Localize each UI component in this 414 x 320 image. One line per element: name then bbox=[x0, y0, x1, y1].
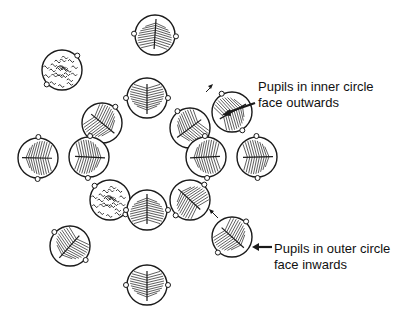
pupil-head bbox=[124, 190, 171, 230]
outer-label-line-1: Pupils in outer circle bbox=[274, 241, 390, 257]
arrow-outer-label bbox=[252, 243, 272, 251]
outer-circle-label: Pupils in outer circle face inwards bbox=[274, 241, 390, 273]
arrow-small-inner bbox=[206, 84, 213, 92]
pupil-heads bbox=[18, 15, 277, 305]
pupil-head bbox=[90, 180, 130, 220]
pupil-head bbox=[132, 15, 179, 55]
arrow-small-outer bbox=[209, 209, 218, 218]
pupil-head bbox=[237, 134, 277, 181]
inner-circle-label: Pupils in inner circle face outwards bbox=[258, 79, 374, 111]
pupil-head bbox=[124, 265, 171, 305]
pupil-head bbox=[124, 78, 171, 118]
pupil-head bbox=[42, 50, 82, 90]
pupil-head bbox=[50, 226, 90, 266]
outer-label-line-2: face inwards bbox=[274, 257, 390, 273]
inner-label-line-1: Pupils in inner circle bbox=[258, 79, 374, 95]
pupil-head bbox=[212, 217, 252, 257]
pupil-head bbox=[170, 180, 210, 220]
inner-label-line-2: face outwards bbox=[258, 95, 374, 111]
pupil-head bbox=[18, 135, 58, 182]
